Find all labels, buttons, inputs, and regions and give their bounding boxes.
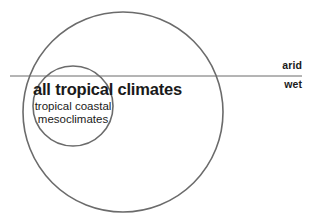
climate-venn-diagram: all tropical climates tropical coastalme… xyxy=(0,0,312,217)
venn-diagram-canvas xyxy=(0,0,312,217)
outer-circle-all-tropical-climates xyxy=(23,12,223,212)
inner-circle-tropical-coastal-mesoclimates xyxy=(33,66,113,146)
